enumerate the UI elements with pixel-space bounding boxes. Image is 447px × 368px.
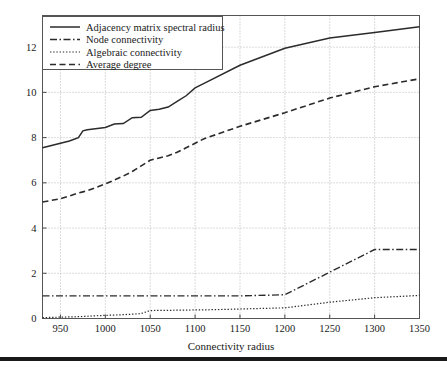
x-axis-title: Connectivity radius (188, 340, 274, 352)
x-tick-label: 1250 (319, 323, 340, 334)
figure-container: 95010001050110011501200125013001350 0246… (0, 0, 447, 368)
chart-legend: Adjacency matrix spectral radiusNode con… (43, 17, 225, 71)
legend-label: Node connectivity (86, 34, 164, 45)
x-tick-label: 1150 (230, 323, 251, 334)
x-tick-label: 1200 (274, 323, 295, 334)
y-tick-label: 4 (31, 223, 37, 234)
y-tick-label: 6 (31, 177, 36, 188)
y-tick-label: 12 (26, 42, 37, 53)
line-chart: 95010001050110011501200125013001350 0246… (0, 0, 447, 368)
legend-label: Adjacency matrix spectral radius (86, 22, 224, 33)
x-tick-label: 1100 (185, 323, 206, 334)
y-tick-label: 8 (31, 132, 36, 143)
x-tick-label: 950 (53, 323, 69, 334)
x-tick-label: 1300 (364, 323, 385, 334)
legend-label: Algebraic connectivity (86, 47, 183, 58)
y-tick-label: 0 (31, 313, 36, 324)
y-tick-label: 10 (26, 87, 37, 98)
bottom-horizontal-rule (0, 357, 447, 361)
x-tick-label: 1000 (95, 323, 116, 334)
x-tick-label: 1350 (409, 323, 430, 334)
x-tick-label: 1050 (140, 323, 161, 334)
y-tick-label: 2 (31, 268, 36, 279)
legend-label: Average degree (86, 59, 152, 70)
x-axis-tick-labels: 95010001050110011501200125013001350 (53, 323, 430, 334)
